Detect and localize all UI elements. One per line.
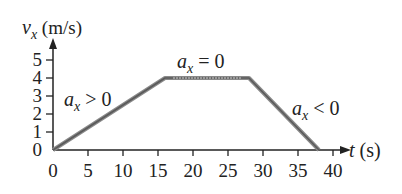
- annotation-accelerating: ax > 0: [64, 88, 112, 114]
- y-axis-label: vx (m/s): [22, 16, 82, 42]
- y-tick-label: 0: [33, 139, 43, 160]
- x-tick-label: 25: [219, 160, 238, 181]
- y-tick-label: 2: [33, 103, 43, 124]
- annotation-constant: ax = 0: [177, 50, 225, 76]
- x-tick-label: 15: [149, 160, 168, 181]
- x-tick-label: 35: [289, 160, 308, 181]
- y-tick-label: 5: [33, 49, 43, 70]
- x-tick-label: 30: [254, 160, 273, 181]
- x-tick-label: 40: [324, 160, 343, 181]
- x-tick-label: 5: [83, 160, 93, 181]
- y-axis-arrow-icon: [49, 38, 57, 49]
- x-tick-label: 0: [48, 160, 58, 181]
- annotation-decelerating: ax < 0: [292, 97, 340, 123]
- x-tick-label: 20: [184, 160, 203, 181]
- velocity-time-chart: 0123450510152025303540 vx (m/s) t (s) ax…: [0, 0, 402, 194]
- x-axis-label: t (s): [349, 139, 381, 162]
- y-tick-label: 3: [33, 85, 43, 106]
- y-tick-label: 4: [33, 67, 43, 88]
- y-tick-label: 1: [33, 121, 43, 142]
- x-tick-label: 10: [114, 160, 133, 181]
